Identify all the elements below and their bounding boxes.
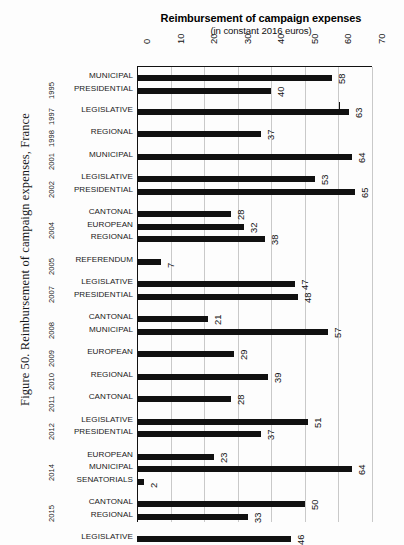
bar (137, 236, 265, 242)
bar-value-label: 53 (319, 175, 330, 185)
plot-area: 5840633764536528323874748215729392851372… (137, 67, 372, 522)
bar (137, 294, 298, 300)
chart-title: Reimbursement of campaign expenses (120, 12, 402, 25)
bar-value-label: 32 (248, 223, 259, 233)
bar (137, 454, 214, 460)
figure-caption: Figure 50. Reimbursement of campaign exp… (18, 25, 33, 495)
bar-value-label: 33 (252, 513, 263, 523)
year-label-2005: 2005 (47, 258, 56, 275)
bar (137, 154, 352, 160)
bar-row: 29 (137, 351, 372, 357)
bar-value-label: 57 (332, 328, 343, 338)
bar-row: 48 (137, 294, 372, 300)
bar (137, 396, 231, 402)
bar (137, 479, 144, 485)
bar-value-label: 64 (356, 465, 367, 475)
bar (137, 281, 295, 287)
bar-row: 32 (137, 224, 372, 230)
bar-row: 39 (137, 374, 372, 380)
x-tick-label-50: 50 (309, 34, 320, 44)
bar-value-label: 63 (353, 108, 364, 118)
bar-row: 57 (137, 329, 372, 335)
x-axis-tick-labels: 010203040506070 (0, 42, 404, 66)
bar-row: 23 (137, 454, 372, 460)
bar (137, 514, 248, 520)
x-tick-label-60: 60 (342, 34, 353, 44)
bar (137, 374, 268, 380)
bar-value-label: 29 (238, 350, 249, 360)
year-label-2011: 2011 (47, 396, 56, 412)
bar (137, 211, 231, 217)
bar-value-label: 58 (336, 74, 347, 84)
bar-value-label: 51 (312, 418, 323, 428)
x-tick-label-30: 30 (242, 34, 253, 44)
year-label-2012: 2012 (47, 423, 56, 440)
x-tick-label-10: 10 (175, 34, 186, 44)
bar (137, 419, 308, 425)
bar-row: 46 (137, 536, 372, 542)
bar-value-label: 7 (165, 263, 176, 268)
bar-row: 28 (137, 211, 372, 217)
bar-row: 38 (137, 236, 372, 242)
figure-page: Figure 50. Reimbursement of campaign exp… (0, 0, 404, 545)
bar (137, 431, 261, 437)
figure-caption-container: Figure 50. Reimbursement of campaign exp… (0, 0, 34, 545)
bar-row: 33 (137, 514, 372, 520)
year-label-2008: 2008 (47, 322, 56, 339)
bar (137, 131, 261, 137)
chart-title-block: Reimbursement of campaign expenses (in c… (120, 12, 402, 37)
bar-row: 58 (137, 75, 372, 81)
x-tick-label-70: 70 (376, 34, 387, 44)
year-label-2004: 2004 (47, 222, 56, 239)
bar-value-label: 65 (359, 188, 370, 198)
bar (137, 501, 305, 507)
bar-row: 64 (137, 466, 372, 472)
bar-value-label: 46 (295, 535, 306, 545)
bar-row: 40 (137, 88, 372, 94)
year-label-1998: 1998 (47, 130, 56, 147)
year-label-2002: 2002 (47, 181, 56, 198)
bar-row: 28 (137, 396, 372, 402)
bar-value-label: 28 (235, 395, 246, 405)
bar-row: 63 (137, 109, 372, 115)
bar-row: 37 (137, 431, 372, 437)
bar (137, 329, 328, 335)
bar-value-label: 39 (272, 373, 283, 383)
bar-value-label: 50 (309, 500, 320, 510)
year-label-2007: 2007 (47, 286, 56, 303)
bar-value-label: 40 (275, 87, 286, 97)
year-label-column: 1995199719982001200220042005200720082009… (34, 67, 60, 522)
bar-row: 2 (137, 479, 372, 485)
bar-row: 53 (137, 176, 372, 182)
bar-value-label: 28 (235, 210, 246, 220)
bar (137, 189, 355, 195)
bar-row: 65 (137, 189, 372, 195)
bar (137, 259, 161, 265)
bar-value-label: 47 (299, 280, 310, 290)
bar-value-label: 48 (302, 293, 313, 303)
bar (137, 536, 291, 542)
bar (137, 224, 244, 230)
bar-row: 64 (137, 154, 372, 160)
bar-value-label: 64 (356, 153, 367, 163)
year-label-2009: 2009 (47, 350, 56, 367)
year-label-2014: 2014 (47, 464, 56, 481)
bar-value-label: 23 (218, 453, 229, 463)
bar (137, 75, 332, 81)
bar-value-label: 37 (265, 130, 276, 140)
year-label-1995: 1995 (47, 82, 56, 99)
year-label-1997: 1997 (47, 108, 56, 125)
x-tick-label-40: 40 (275, 34, 286, 44)
bar-value-label: 2 (148, 483, 159, 488)
bar-row: 50 (137, 501, 372, 507)
bar-value-label: 21 (212, 315, 223, 325)
bar-row: 51 (137, 419, 372, 425)
bar-row: 21 (137, 316, 372, 322)
bar-row: 47 (137, 281, 372, 287)
bar (137, 466, 352, 472)
bar (137, 316, 208, 322)
bar-value-label: 37 (265, 430, 276, 440)
x-tick-label-20: 20 (208, 34, 219, 44)
bar-row: 37 (137, 131, 372, 137)
bar (137, 88, 271, 94)
